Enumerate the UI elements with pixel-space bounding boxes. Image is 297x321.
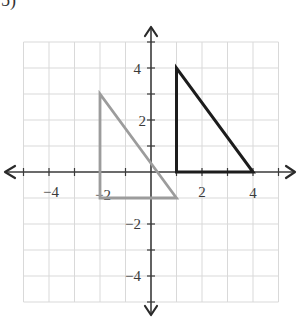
y-label-2: 2	[139, 113, 147, 129]
y-label-4: 4	[134, 61, 142, 77]
x-label-neg4: −4	[43, 184, 59, 200]
x-label-4: 4	[249, 185, 257, 201]
coordinate-plane: −4 −2 2 4 4 2 −2 −4	[0, 0, 297, 321]
x-label-2: 2	[198, 184, 206, 200]
y-label-neg2: −2	[125, 216, 141, 232]
x-label-neg2: −2	[95, 187, 111, 203]
y-label-neg4: −4	[125, 268, 141, 284]
